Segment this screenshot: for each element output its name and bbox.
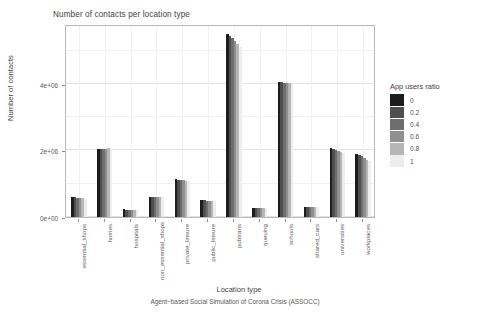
- legend-item[interactable]: 0.8: [390, 143, 474, 155]
- bar: [213, 201, 216, 217]
- legend-label: 1: [410, 158, 414, 165]
- legend-item[interactable]: 0: [390, 94, 474, 106]
- chart-caption: Agent−based Social Simulation of Corona …: [0, 298, 470, 305]
- y-tick-mark: [62, 85, 65, 86]
- x-tick-mark: [78, 219, 79, 222]
- bar-group: [97, 26, 113, 217]
- x-tick-label: non_essential_shops: [158, 224, 165, 280]
- bar-group: [71, 26, 87, 217]
- y-tick-mark: [62, 218, 65, 219]
- bar-group: [252, 26, 268, 217]
- y-tick-mark: [62, 151, 65, 152]
- bar-group: [174, 26, 190, 217]
- plot-panel: [65, 25, 375, 218]
- bar-group: [355, 26, 371, 217]
- legend-swatch: [390, 155, 404, 166]
- legend-label: 0.4: [410, 121, 419, 128]
- bar-group: [277, 26, 293, 217]
- legend-label: 0.6: [410, 133, 419, 140]
- legend-swatch: [390, 94, 404, 105]
- legend-swatch: [390, 119, 404, 130]
- bar: [187, 181, 190, 217]
- chart-root: Number of contacts per location type 0e+…: [0, 0, 478, 315]
- x-tick-label: public_leisure: [209, 224, 216, 280]
- legend-label: 0: [410, 97, 414, 104]
- x-tick-mark: [233, 219, 234, 222]
- bar: [239, 47, 242, 217]
- legend-title: App users ratio: [390, 82, 474, 91]
- x-tick-label: hospitals: [132, 224, 139, 280]
- legend-swatch: [390, 107, 404, 118]
- legend-item[interactable]: 1: [390, 155, 474, 167]
- x-tick-mark: [130, 219, 131, 222]
- x-tick-mark: [259, 219, 260, 222]
- legend-item[interactable]: 0.6: [390, 131, 474, 143]
- y-axis-title: Number of contacts: [6, 55, 15, 121]
- legend-label: 0.8: [410, 145, 419, 152]
- x-tick-mark: [104, 219, 105, 222]
- bar: [342, 153, 345, 217]
- y-tick-label: 2e+06: [24, 148, 58, 155]
- x-tick-label: shared_cars: [313, 224, 320, 280]
- legend-item[interactable]: 0.2: [390, 106, 474, 118]
- bar: [316, 207, 319, 217]
- y-tick-label: 0e+00: [24, 215, 58, 222]
- bar: [161, 197, 164, 217]
- x-tick-mark: [207, 219, 208, 222]
- bar: [368, 161, 371, 217]
- x-tick-mark: [310, 219, 311, 222]
- bar: [291, 84, 294, 217]
- bar: [136, 210, 139, 217]
- legend-item[interactable]: 0.4: [390, 118, 474, 130]
- bar-group: [122, 26, 138, 217]
- x-tick-mark: [285, 219, 286, 222]
- legend-swatch: [390, 131, 404, 142]
- x-tick-label: private_leisure: [183, 224, 190, 280]
- bar: [110, 148, 113, 217]
- bar-group: [303, 26, 319, 217]
- x-tick-mark: [336, 219, 337, 222]
- x-tick-mark: [155, 219, 156, 222]
- x-tick-label: essential_shops: [80, 224, 87, 280]
- legend-swatch: [390, 143, 404, 154]
- x-tick-label: schools: [287, 224, 294, 280]
- bar: [265, 209, 268, 217]
- bar: [84, 199, 87, 217]
- x-tick-mark: [362, 219, 363, 222]
- bar-group: [148, 26, 164, 217]
- bar-groups: [66, 26, 374, 217]
- x-tick-label: queuing: [261, 224, 268, 280]
- y-tick-label: 4e+06: [24, 81, 58, 88]
- x-tick-label: universities: [338, 224, 345, 280]
- x-axis-title: Location type: [0, 285, 478, 294]
- legend-label: 0.2: [410, 109, 419, 116]
- bar-group: [226, 26, 242, 217]
- x-tick-mark: [181, 219, 182, 222]
- bar-group: [200, 26, 216, 217]
- legend-items: 00.20.40.60.81: [390, 94, 474, 167]
- chart-title: Number of contacts per location type: [53, 10, 190, 19]
- x-tick-label: workplaces: [364, 224, 371, 280]
- x-tick-label: pubtrans: [235, 224, 242, 280]
- x-tick-label: homes: [106, 224, 113, 280]
- bar-group: [329, 26, 345, 217]
- legend: App users ratio 00.20.40.60.81: [390, 82, 474, 167]
